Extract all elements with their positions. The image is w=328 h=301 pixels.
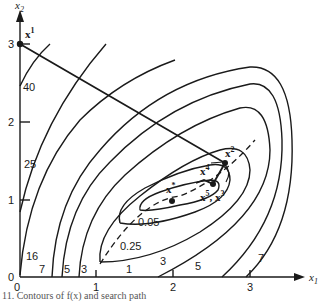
label-xstar: x* [166, 181, 176, 195]
contour-label-25: 25 [24, 158, 36, 170]
contour-label-3-right: 3 [160, 255, 166, 267]
y-tick-3: 3 [8, 38, 14, 50]
y-tick-1: 1 [8, 194, 14, 206]
y-tick-0: 0 [8, 271, 14, 283]
contour-label-40: 40 [23, 81, 35, 93]
point-x2 [222, 160, 228, 166]
contour-label-3: 3 [81, 263, 87, 275]
y-tick-2: 2 [8, 116, 14, 128]
x-tick-3: 3 [247, 281, 253, 293]
label-x1: x1 [25, 26, 35, 40]
contour-label-0.05: 0.05 [138, 216, 159, 228]
point-xstar [169, 198, 175, 204]
y-axis-label: x2 [14, 0, 24, 14]
label-x2: x2 [225, 145, 235, 159]
contour-label-5: 5 [64, 263, 70, 275]
x-tick-2: 2 [170, 281, 176, 293]
figure-caption: 11. Contours of f(x) and search path [2, 290, 146, 301]
axes [20, 14, 300, 277]
contour-label-5-right: 5 [195, 260, 201, 272]
contour-label-1: 1 [126, 263, 132, 275]
label-x5-x3: x5, x3 [200, 189, 225, 203]
contour-label-7: 7 [39, 263, 45, 275]
contour-label-16: 16 [26, 250, 38, 262]
contour-label-7-right: 7 [258, 252, 264, 264]
x-axis-arrow-icon [294, 273, 305, 281]
point-x3 [210, 181, 216, 187]
x-axis-label: x1 [308, 271, 318, 286]
contour-label-0.25: 0.25 [120, 240, 141, 252]
contour-lines [20, 44, 292, 277]
iterate-points [17, 41, 228, 204]
label-x4: x4 [200, 163, 210, 177]
